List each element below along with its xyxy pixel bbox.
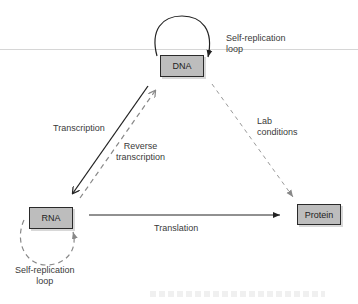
node-rna: RNA bbox=[29, 207, 73, 229]
dna-self-replication-arrow bbox=[155, 16, 210, 57]
node-rna-label: RNA bbox=[41, 213, 60, 223]
lab-conditions-arrow bbox=[212, 84, 293, 197]
node-dna-label: DNA bbox=[172, 61, 191, 71]
reverse-transcription-label: Reverse transcription bbox=[116, 141, 165, 163]
transcription-label: Transcription bbox=[53, 123, 105, 134]
clipped-caption bbox=[150, 291, 325, 297]
lab-conditions-label: Lab conditions bbox=[257, 116, 298, 138]
dna-loop-label: Self-replication loop bbox=[226, 33, 286, 55]
diagram-canvas bbox=[0, 0, 358, 304]
node-protein: Protein bbox=[297, 204, 341, 225]
node-dna: DNA bbox=[160, 55, 204, 77]
translation-label: Translation bbox=[154, 223, 198, 234]
rna-loop-label: Self-replication loop bbox=[15, 265, 75, 287]
node-protein-label: Protein bbox=[305, 210, 334, 220]
transcription-arrow bbox=[73, 86, 148, 193]
